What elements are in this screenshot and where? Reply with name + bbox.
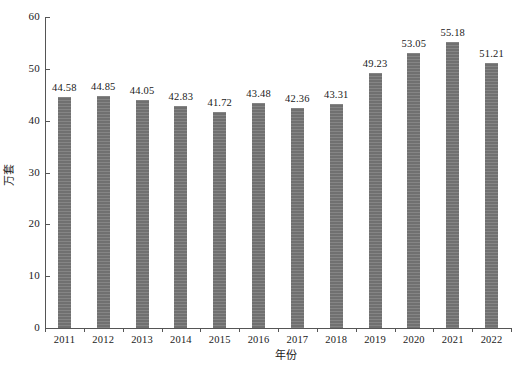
bar-2021: [446, 42, 459, 328]
bar-value-label-2019: 49.23: [345, 58, 405, 70]
x-tick: [433, 328, 434, 332]
x-tick: [84, 328, 85, 332]
x-tick: [239, 328, 240, 332]
y-axis-title: 万套: [3, 145, 16, 205]
y-tick-50: [45, 69, 50, 70]
x-tick: [317, 328, 318, 332]
y-tick-10: [45, 276, 50, 277]
bar-2022: [485, 63, 498, 328]
bar-value-label-2021: 55.18: [423, 27, 483, 39]
bar-2012: [97, 96, 110, 328]
bar-2020: [407, 53, 420, 328]
x-tick: [200, 328, 201, 332]
y-tick-label: 40: [0, 115, 40, 126]
bar-value-label-2018: 43.31: [306, 89, 366, 101]
x-tick: [162, 328, 163, 332]
bar-2014: [174, 106, 187, 328]
bar-2016: [252, 103, 265, 328]
bar-value-label-2020: 53.05: [384, 38, 444, 50]
y-tick-60: [45, 17, 50, 18]
x-tick: [472, 328, 473, 332]
bar-2015: [213, 112, 226, 328]
bar-2017: [291, 108, 304, 328]
y-tick-label: 10: [0, 270, 40, 281]
x-tick: [356, 328, 357, 332]
x-tick: [395, 328, 396, 332]
bar-2019: [369, 73, 382, 328]
y-tick-label: 60: [0, 11, 40, 22]
x-tick-label-2022: 2022: [462, 334, 522, 346]
x-tick: [278, 328, 279, 332]
y-tick-label: 50: [0, 63, 40, 74]
y-tick-label: 0: [0, 322, 40, 333]
y-tick-30: [45, 173, 50, 174]
bar-2011: [58, 97, 71, 328]
x-axis-title: 年份: [0, 349, 531, 362]
x-tick: [123, 328, 124, 332]
bar-chart: 0102030405060 44.5844.8544.0542.8341.724…: [0, 0, 531, 368]
x-tick: [511, 328, 512, 332]
y-tick-label: 20: [0, 218, 40, 229]
bar-2013: [136, 100, 149, 328]
bar-value-label-2022: 51.21: [462, 48, 522, 60]
y-tick-20: [45, 224, 50, 225]
bar-2018: [330, 104, 343, 328]
y-tick-40: [45, 121, 50, 122]
x-tick: [45, 328, 46, 332]
